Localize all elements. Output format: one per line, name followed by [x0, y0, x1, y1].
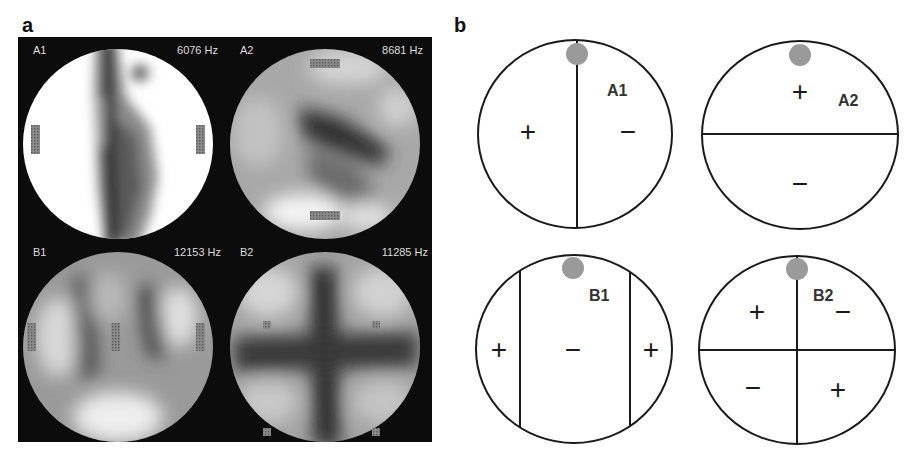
diagram-id-label: B2 — [813, 287, 834, 304]
marker-dot-icon — [789, 44, 811, 66]
sign-plus-icon: + — [792, 76, 808, 107]
sign-plus-icon: + — [643, 334, 659, 365]
sign-minus-icon: − — [745, 372, 761, 403]
sign-plus-icon: + — [830, 374, 846, 405]
marker-dot-icon — [562, 257, 584, 279]
marker-dot-icon — [566, 43, 588, 65]
sign-minus-icon: − — [565, 334, 581, 365]
diagram-a1 — [478, 40, 672, 228]
diagram-a2 — [700, 41, 900, 229]
diagram-id-label: A1 — [607, 82, 628, 99]
diagram-id-label: A2 — [838, 92, 859, 109]
diagram-b2 — [695, 250, 900, 450]
sign-plus-icon: + — [491, 334, 507, 365]
sign-plus-icon: + — [749, 296, 765, 327]
panel-b-diagrams: A1 + − A2 + − B1 + − + B2 + − − + — [0, 0, 920, 454]
marker-dot-icon — [786, 258, 808, 280]
sign-minus-icon: − — [835, 296, 851, 327]
sign-plus-icon: + — [520, 116, 536, 147]
sign-minus-icon: − — [620, 116, 636, 147]
sign-minus-icon: − — [792, 168, 808, 199]
diagram-id-label: B1 — [589, 287, 610, 304]
